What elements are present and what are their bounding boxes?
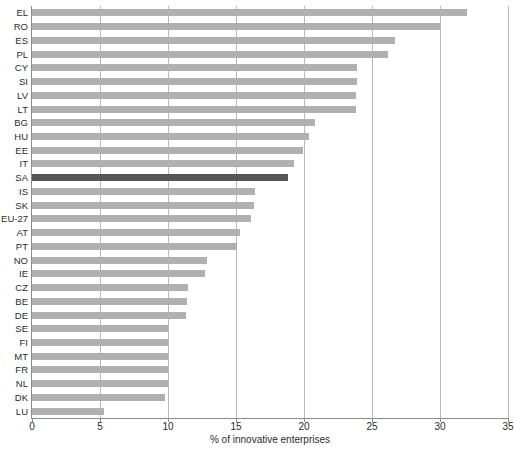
x-tick-label-15: 15 [230, 421, 241, 432]
bar-row [32, 174, 508, 181]
bar-row [32, 37, 508, 44]
x-axis-label: % of innovative enterprises [32, 434, 508, 445]
x-tick-label-5: 5 [97, 421, 103, 432]
bar-FI [32, 339, 168, 346]
category-label-DK: DK [0, 393, 28, 402]
bar-SI [32, 78, 357, 85]
y-axis-category-labels: ELROESPLCYSILVLTBGHUEEITSAISSKEU-27ATPTN… [0, 6, 28, 418]
bar-row [32, 202, 508, 209]
bar-row [32, 64, 508, 71]
category-label-FR: FR [0, 365, 28, 374]
bar-PT [32, 243, 237, 250]
category-label-SI: SI [0, 77, 28, 86]
bar-CY [32, 64, 357, 71]
bar-HU [32, 133, 309, 140]
bar-FR [32, 366, 168, 373]
bar-row [32, 257, 508, 264]
bar-row [32, 147, 508, 154]
category-label-IE: IE [0, 269, 28, 278]
bar-row [32, 394, 508, 401]
bar-row [32, 284, 508, 291]
bar-row [32, 92, 508, 99]
bar-IE [32, 270, 205, 277]
bar-row [32, 298, 508, 305]
category-label-LU: LU [0, 407, 28, 416]
bar-row [32, 119, 508, 126]
category-label-FI: FI [0, 338, 28, 347]
category-label-EU-27: EU-27 [0, 214, 28, 223]
chart-container: ELROESPLCYSILVLTBGHUEEITSAISSKEU-27ATPTN… [0, 0, 514, 452]
bar-row [32, 270, 508, 277]
bar-row [32, 339, 508, 346]
category-label-CZ: CZ [0, 283, 28, 292]
category-label-AT: AT [0, 228, 28, 237]
bar-row [32, 188, 508, 195]
category-label-IS: IS [0, 187, 28, 196]
bar-row [32, 9, 508, 16]
bar-ES [32, 37, 395, 44]
x-tick-label-30: 30 [434, 421, 445, 432]
plot-area [32, 6, 508, 418]
bar-row [32, 23, 508, 30]
bar-RO [32, 23, 440, 30]
bar-BE [32, 298, 187, 305]
bar-row [32, 106, 508, 113]
bar-row [32, 312, 508, 319]
bar-SA [32, 174, 288, 181]
bar-row [32, 243, 508, 250]
bar-IT [32, 160, 294, 167]
category-label-DE: DE [0, 311, 28, 320]
bar-row [32, 325, 508, 332]
bar-row [32, 353, 508, 360]
category-label-HU: HU [0, 132, 28, 141]
bar-CZ [32, 284, 188, 291]
x-tick-label-20: 20 [298, 421, 309, 432]
x-tick-label-0: 0 [29, 421, 35, 432]
bar-row [32, 215, 508, 222]
bar-NL [32, 380, 168, 387]
bar-BG [32, 119, 315, 126]
bar-LU [32, 408, 104, 415]
bar-EL [32, 9, 467, 16]
bar-row [32, 78, 508, 85]
bar-NO [32, 257, 207, 264]
x-tick-label-25: 25 [366, 421, 377, 432]
bar-SK [32, 202, 254, 209]
category-label-PL: PL [0, 50, 28, 59]
bar-row [32, 51, 508, 58]
category-label-IT: IT [0, 159, 28, 168]
category-label-LT: LT [0, 105, 28, 114]
category-label-SK: SK [0, 201, 28, 210]
bar-LT [32, 106, 356, 113]
category-label-ES: ES [0, 36, 28, 45]
gridline-35 [508, 6, 509, 418]
category-label-RO: RO [0, 22, 28, 31]
bar-row [32, 380, 508, 387]
bar-PL [32, 51, 388, 58]
bar-IS [32, 188, 255, 195]
x-tick-label-35: 35 [502, 421, 513, 432]
bar-AT [32, 229, 240, 236]
category-label-BG: BG [0, 118, 28, 127]
bar-row [32, 160, 508, 167]
bar-EU-27 [32, 215, 251, 222]
x-tick-label-10: 10 [162, 421, 173, 432]
bar-SE [32, 325, 168, 332]
bar-row [32, 229, 508, 236]
category-label-SA: SA [0, 173, 28, 182]
category-label-NO: NO [0, 256, 28, 265]
category-label-BE: BE [0, 297, 28, 306]
bar-row [32, 408, 508, 415]
category-label-NL: NL [0, 379, 28, 388]
category-label-PT: PT [0, 242, 28, 251]
bar-row [32, 133, 508, 140]
bar-DE [32, 312, 186, 319]
category-label-CY: CY [0, 63, 28, 72]
category-label-MT: MT [0, 352, 28, 361]
bar-row [32, 366, 508, 373]
bar-MT [32, 353, 168, 360]
category-label-LV: LV [0, 91, 28, 100]
bar-LV [32, 92, 356, 99]
category-label-SE: SE [0, 324, 28, 333]
bar-EE [32, 147, 303, 154]
